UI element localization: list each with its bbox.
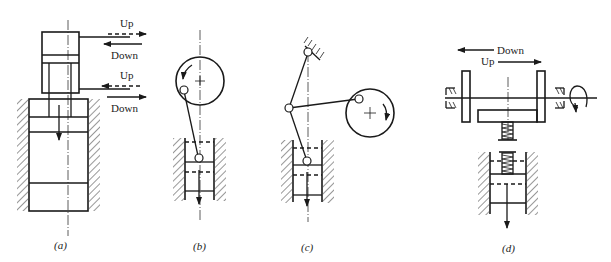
panel-c-toggle-press: (c) <box>281 37 394 254</box>
piston-pin <box>303 157 311 165</box>
caption-d: (d) <box>502 242 515 255</box>
left-frame-hatch <box>281 140 292 203</box>
panel-a-hydraulic-press: Up Down Up Down (a) <box>17 17 146 252</box>
press-mechanisms-diagram: Up Down Up Down (a) (b) <box>0 0 611 262</box>
rotation-ccw-arrow-icon <box>183 65 192 79</box>
left-frame-hatch <box>478 152 489 215</box>
label-down: Down <box>497 44 524 56</box>
connecting-rod <box>184 91 198 156</box>
piston-pin <box>195 154 203 162</box>
right-frame-hatch <box>323 140 334 203</box>
flywheel-block <box>478 110 537 122</box>
caption-c: (c) <box>301 241 314 254</box>
label-up: Up <box>481 55 495 67</box>
right-friction-disc <box>537 71 545 122</box>
crank-pin <box>355 95 363 103</box>
caption-a: (a) <box>54 239 67 252</box>
shaft-rotation-arrow-icon <box>570 86 587 108</box>
crank-pin <box>180 86 188 94</box>
right-frame-hatch <box>215 138 226 201</box>
label-up-upper: Up <box>120 17 134 29</box>
toggle-joint <box>285 104 293 112</box>
left-frame-hatch <box>173 138 184 201</box>
right-frame-hatch <box>89 99 100 211</box>
rotation-cw-arrow-icon <box>383 104 387 120</box>
caption-b: (b) <box>193 240 206 253</box>
upper-toggle-link <box>289 53 308 108</box>
right-frame-hatch <box>527 152 538 215</box>
panel-b-crank-press: (b) <box>173 30 226 253</box>
panel-d-friction-screw-press: Down Up <box>445 44 597 255</box>
left-frame-hatch <box>17 99 28 211</box>
label-down-upper: Down <box>111 49 138 61</box>
fixed-pivot <box>304 48 312 56</box>
label-up-lower: Up <box>120 69 134 81</box>
left-friction-disc <box>462 71 470 122</box>
label-down-lower: Down <box>111 102 138 114</box>
